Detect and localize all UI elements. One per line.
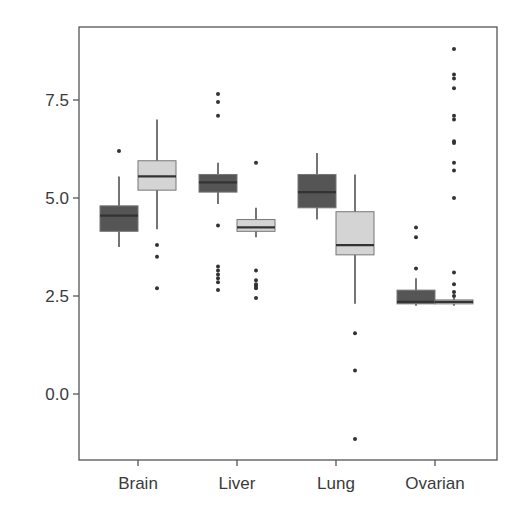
x-axis: BrainLiverLungOvarian <box>118 460 465 493</box>
outlier-point <box>216 269 220 273</box>
outlier-point <box>452 47 456 51</box>
x-tick-label-liver: Liver <box>219 474 256 493</box>
outlier-point <box>452 294 456 298</box>
outlier-point <box>353 368 357 372</box>
box-lung-group_dark <box>298 153 336 220</box>
y-tick-label: 5.0 <box>45 189 69 208</box>
outlier-point <box>216 223 220 227</box>
outlier-point <box>452 290 456 294</box>
outlier-point <box>216 272 220 276</box>
y-tick-label: 2.5 <box>45 287 69 306</box>
outlier-point <box>452 169 456 173</box>
iqr-box <box>100 206 138 231</box>
outlier-point <box>452 73 456 77</box>
outlier-point <box>254 278 258 282</box>
outlier-point <box>414 235 418 239</box>
outlier-point <box>254 296 258 300</box>
outlier-point <box>414 267 418 271</box>
iqr-box <box>336 212 374 255</box>
y-axis: 0.02.55.07.5 <box>45 91 79 404</box>
box-brain-group_dark <box>100 149 138 247</box>
outlier-point <box>216 288 220 292</box>
outlier-point <box>452 86 456 90</box>
outlier-point <box>216 265 220 269</box>
outlier-point <box>452 114 456 118</box>
y-tick-label: 0.0 <box>45 385 69 404</box>
plot-area <box>79 27 497 460</box>
series-group_light <box>138 47 473 441</box>
outlier-point <box>452 282 456 286</box>
outlier-point <box>216 114 220 118</box>
outlier-point <box>353 437 357 441</box>
outlier-point <box>155 286 159 290</box>
outlier-point <box>216 276 220 280</box>
box-liver-group_dark <box>199 92 237 292</box>
box-ovarian-group_light <box>435 47 473 306</box>
outlier-point <box>414 225 418 229</box>
outlier-point <box>452 196 456 200</box>
box-liver-group_light <box>237 161 275 300</box>
outlier-point <box>216 100 220 104</box>
box-plot-chart: 0.02.55.07.5 BrainLiverLungOvarian <box>0 0 527 531</box>
outlier-point <box>117 149 121 153</box>
outlier-point <box>155 255 159 259</box>
outlier-point <box>254 286 258 290</box>
outlier-point <box>216 280 220 284</box>
outlier-point <box>216 92 220 96</box>
x-tick-label-brain: Brain <box>118 474 158 493</box>
series-group_dark <box>100 92 435 306</box>
x-tick-label-ovarian: Ovarian <box>405 474 465 493</box>
x-tick-label-lung: Lung <box>317 474 355 493</box>
outlier-point <box>155 243 159 247</box>
y-tick-label: 7.5 <box>45 91 69 110</box>
outlier-point <box>452 161 456 165</box>
outlier-point <box>353 331 357 335</box>
outlier-point <box>254 161 258 165</box>
box-lung-group_light <box>336 174 374 441</box>
box-brain-group_light <box>138 120 176 291</box>
outlier-point <box>452 141 456 145</box>
outlier-point <box>452 118 456 122</box>
outlier-point <box>254 269 258 273</box>
plot-frame <box>79 27 497 460</box>
outlier-point <box>452 270 456 274</box>
iqr-box <box>237 220 275 232</box>
box-ovarian-group_dark <box>397 225 435 305</box>
outlier-point <box>452 76 456 80</box>
